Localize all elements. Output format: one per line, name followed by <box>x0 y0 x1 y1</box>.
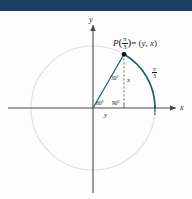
point-p-equals: = ( <box>131 38 141 48</box>
y-axis-arrow <box>90 25 96 31</box>
arc-label-pi-over-three: π3 <box>152 66 157 79</box>
horizontal-leg-label: y <box>104 112 107 119</box>
x-axis-arrow <box>170 105 176 111</box>
y-axis-label: y <box>89 16 93 24</box>
angle-label-30: 30° <box>111 76 119 82</box>
vertical-leg-label: x <box>127 77 130 84</box>
unit-circle-figure: y x 1 P(π3)= (y, x) π3 30° 60° 90° x y <box>0 11 192 199</box>
page-top-banner <box>0 0 192 11</box>
angle-label-90: 90° <box>112 101 120 107</box>
figure-page: y x 1 P(π3)= (y, x) π3 30° 60° 90° x y <box>0 0 192 199</box>
x-axis-label: x <box>180 104 184 112</box>
arc-fraction: π3 <box>152 66 157 79</box>
point-p-dot <box>122 52 127 57</box>
x-tick-label-one: 1 <box>153 110 157 117</box>
point-p-coord-close: ) <box>154 38 157 48</box>
arc-denominator: 3 <box>152 72 157 79</box>
point-p-label: P(π3)= (y, x) <box>113 36 157 51</box>
angle-label-60: 60° <box>96 101 104 107</box>
